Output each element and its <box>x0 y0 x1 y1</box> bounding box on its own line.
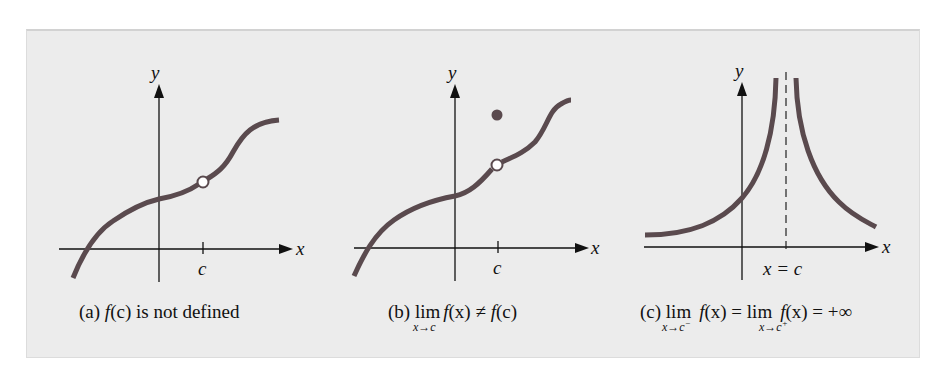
panel-a-y-label: y <box>149 62 160 83</box>
figure-panel: y x c (a) f(c) is not defined y x c (b) … <box>26 29 920 358</box>
panel-c: y x x = c (c) limf(x) = limf(x) = +∞ x→c… <box>640 60 891 334</box>
svg-text:x→c: x→c <box>412 320 436 334</box>
figure-svg: y x c (a) f(c) is not defined y x c (b) … <box>27 31 921 360</box>
panel-a-y-axis <box>154 84 164 282</box>
panel-b-y-label: y <box>446 62 457 83</box>
arrow-up-icon <box>737 82 747 96</box>
panel-b-y-axis <box>450 84 460 281</box>
panel-b-caption: (b) limf(x) ≠ f(c) x→c <box>388 301 517 334</box>
panel-b-x-axis <box>354 243 589 253</box>
panel-b: y x c (b) limf(x) ≠ f(c) x→c <box>354 62 600 334</box>
filled-point-icon <box>492 110 503 121</box>
panel-c-left-branch <box>645 78 776 235</box>
arrow-right-icon <box>865 242 879 252</box>
panel-b-x-label: x <box>590 237 600 258</box>
arrow-up-icon <box>154 84 164 98</box>
panel-a: y x c (a) f(c) is not defined <box>59 62 305 323</box>
arrow-right-icon <box>575 243 589 253</box>
panel-b-tick-label: c <box>493 257 502 278</box>
panel-a-x-axis <box>59 244 293 254</box>
panel-c-caption: (c) limf(x) = limf(x) = +∞ x→c− x→c+ <box>640 301 852 334</box>
panel-a-x-label: x <box>295 238 305 259</box>
panel-c-x-label: x <box>881 236 891 257</box>
arrow-up-icon <box>450 84 460 98</box>
svg-text:(b) limf(x) ≠ f(c): (b) limf(x) ≠ f(c) <box>388 301 517 323</box>
panel-b-curve <box>354 100 571 276</box>
svg-text:x→c−: x→c− <box>661 318 691 334</box>
arrow-right-icon <box>279 244 293 254</box>
open-point-icon <box>492 160 503 171</box>
panel-a-caption: (a) f(c) is not defined <box>79 301 240 323</box>
panel-c-y-label: y <box>733 60 744 81</box>
panel-c-asymptote-label: x = c <box>762 258 803 279</box>
open-point-icon <box>198 177 209 188</box>
panel-a-curve <box>73 120 279 278</box>
panel-c-right-branch <box>796 78 876 227</box>
panel-c-x-axis <box>644 242 879 252</box>
svg-text:x→c+: x→c+ <box>758 318 788 334</box>
panel-a-tick-label: c <box>198 258 207 279</box>
panel-c-y-axis <box>737 82 747 280</box>
